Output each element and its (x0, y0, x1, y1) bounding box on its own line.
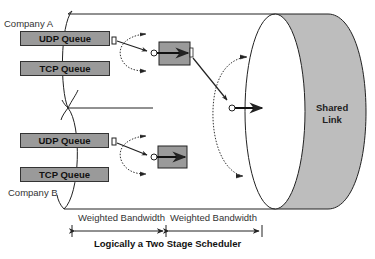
company-b-label: Company B (8, 187, 58, 198)
selector-node-b (151, 154, 157, 160)
dotted-arc-b (120, 136, 145, 174)
company-b-ellipse-arc (64, 108, 77, 209)
shared-link-line1: Shared (316, 102, 348, 114)
bandwidth-label-1: Weighted Bandwidth (78, 212, 165, 223)
shared-link-label: Shared Link (316, 102, 348, 126)
company-a-ellipse-arc (62, 11, 72, 108)
udp-output-port-a (112, 37, 116, 44)
company-b-tcp-queue: TCP Queue (20, 167, 109, 182)
selector-node-a (151, 50, 157, 56)
diagram-title: Logically a Two Stage Scheduler (94, 238, 241, 249)
stage2-selector-arrow (193, 58, 227, 100)
company-a-tcp-queue: TCP Queue (20, 61, 110, 76)
shared-link-line2: Link (316, 114, 348, 126)
stage2-dotted-arc (213, 57, 246, 176)
stage2-selector-node (229, 105, 235, 111)
company-a-udp-queue: UDP Queue (20, 31, 110, 46)
udp-output-port-b (112, 138, 116, 145)
dotted-arc-a (120, 34, 145, 71)
link-face-ellipse (245, 14, 305, 209)
company-a-label: Company A (4, 18, 53, 29)
company-b-udp-queue: UDP Queue (20, 133, 109, 148)
bandwidth-label-2: Weighted Bandwidth (170, 212, 257, 223)
